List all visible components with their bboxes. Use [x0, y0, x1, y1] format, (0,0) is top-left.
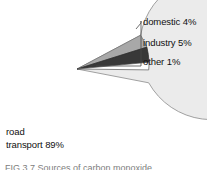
pie-label-other: other 1% [143, 56, 180, 67]
pie-label-road-transport-line2: transport 89% [6, 139, 64, 152]
pie-label-domestic: domestic 4% [143, 16, 196, 27]
pie-label-road-transport-line1: road [6, 126, 64, 139]
pie-label-industry: industry 5% [143, 37, 192, 48]
pie-label-road-transport: road transport 89% [6, 126, 64, 151]
figure-caption: FIG 3.7 Sources of carbon monoxide [5, 163, 205, 170]
pie-chart-figure: domestic 4% industry 5% other 1% road tr… [0, 0, 207, 170]
leader-line-domestic [136, 21, 141, 29]
